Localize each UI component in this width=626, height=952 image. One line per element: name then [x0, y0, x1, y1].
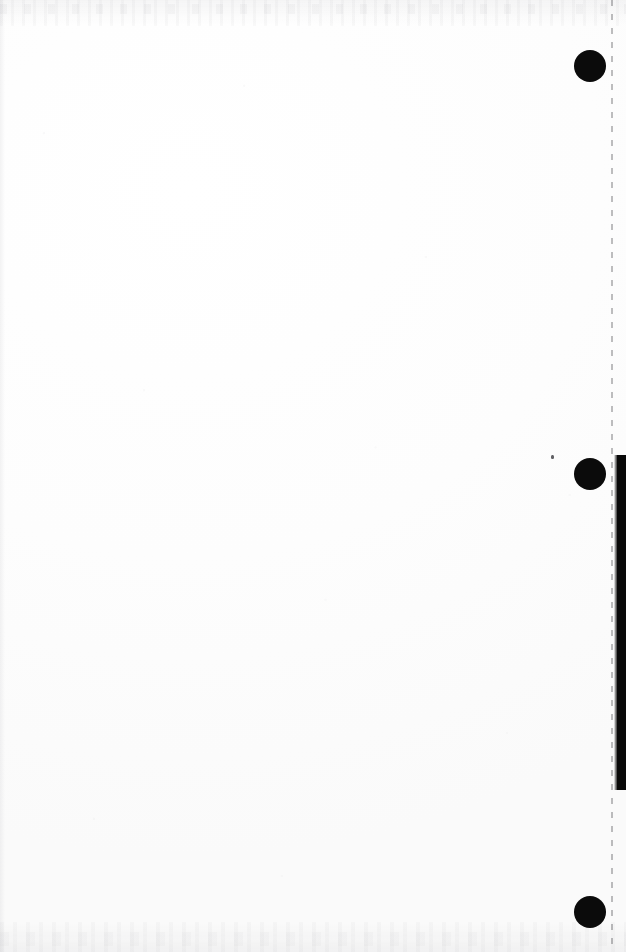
paper-background [0, 0, 626, 952]
right-edge-black-bar [617, 455, 626, 790]
registration-dot-bottom [574, 896, 606, 928]
scanned-page [0, 0, 626, 952]
right-margin-dashed-guide [611, 0, 613, 952]
registration-dot-top [574, 50, 606, 82]
registration-dot-middle [574, 458, 606, 490]
stray-ink-speck [551, 455, 554, 459]
